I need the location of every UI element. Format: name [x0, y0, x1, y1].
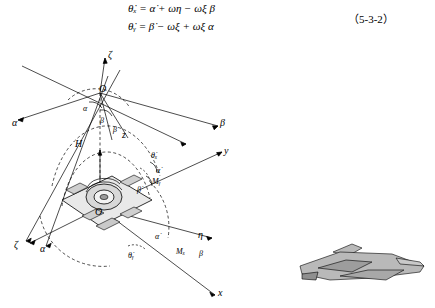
figure-page: θ̇ₓ = α̇ + ωη − ωξ β θ̇ᵧ = β̇ − ωξ + ωξ … — [0, 0, 435, 308]
arc-theta-y — [128, 245, 146, 250]
arrow-y-lower — [217, 152, 222, 156]
axis-inner-upper-b — [100, 93, 112, 140]
arrow-z-lower — [98, 150, 102, 155]
diagram-svg — [0, 0, 435, 308]
arrow-zeta-upper — [103, 58, 107, 64]
axis-cross-upper — [22, 66, 186, 144]
arrow-beta-upper — [213, 126, 219, 130]
gimbal-hub-center — [100, 194, 108, 199]
arc-angle-beta — [100, 110, 112, 116]
arrow-zeta-lower — [30, 240, 35, 245]
fighter-jet-silhouette — [300, 244, 424, 280]
arrow-alpha-upper — [18, 118, 24, 122]
arc-theta-x — [140, 168, 150, 182]
arrow-beta-lower — [207, 236, 212, 240]
arc-alpha-dot — [150, 162, 157, 172]
arc-outer-left — [52, 126, 160, 186]
arrow-cross-upper — [181, 142, 186, 146]
arc-right — [150, 182, 169, 238]
